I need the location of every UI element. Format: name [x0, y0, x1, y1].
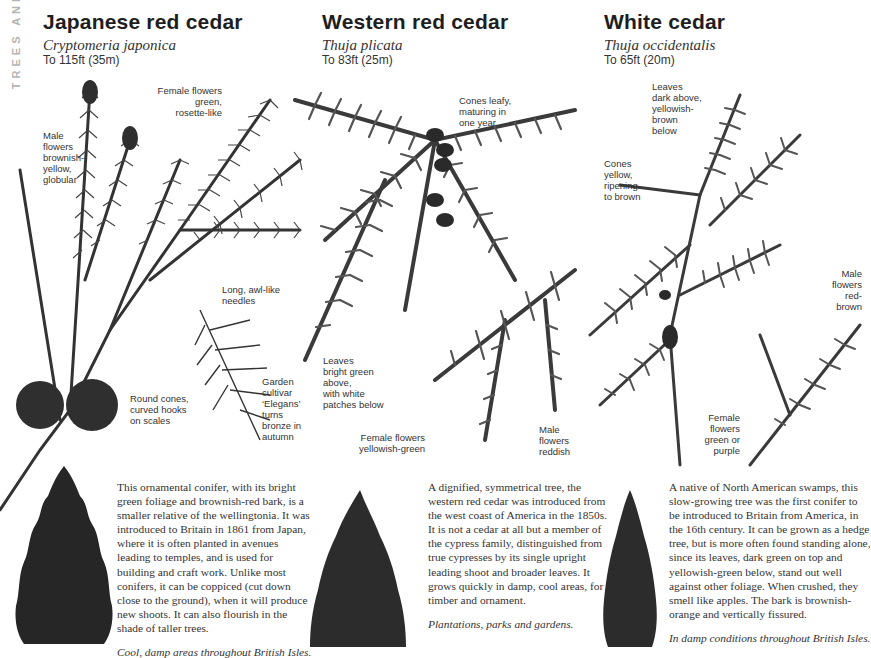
label-white-female-flowers: Female flowers green or purple [690, 412, 740, 456]
species-2-max-height: To 83ft (25m) [322, 53, 393, 67]
species-3-description: A native of North American swamps, this … [669, 480, 871, 621]
species-3-habitat: In damp conditions throughout British Is… [669, 632, 871, 644]
japanese-cedar-tree-silhouette [14, 466, 114, 646]
label-japanese-male-flowers: Male flowers brownish- yellow, globular [43, 130, 84, 185]
label-white-male-flowers: Male flowers red- brown [820, 268, 862, 312]
species-1-max-height: To 115ft (35m) [43, 53, 119, 67]
species-1-latin-name: Cryptomeria japonica [43, 37, 176, 54]
label-japanese-female-flowers: Female flowers green, rosette-like [150, 85, 222, 118]
species-2-habitat: Plantations, parks and gardens. [428, 618, 608, 630]
label-white-leaves: Leaves dark above, yellowish- brown belo… [652, 81, 702, 136]
label-western-leaves: Leaves bright green above, with white pa… [323, 355, 384, 410]
species-2-common-name: Western red cedar [322, 10, 508, 34]
label-western-male-flowers: Male flowers reddish [539, 424, 570, 457]
label-white-cones: Cones yellow, ripening to brown [604, 158, 640, 202]
label-western-cones: Cones leafy, maturing in one year [459, 95, 511, 128]
species-3-max-height: To 65ft (20m) [604, 53, 675, 67]
species-1-habitat: Cool, damp areas throughout British Isle… [117, 646, 313, 658]
species-1-description: This ornamental conifer, with its bright… [117, 480, 313, 635]
label-japanese-needles: Long, awl-like needles [222, 284, 280, 306]
species-1-text-block: This ornamental conifer, with its bright… [117, 480, 313, 658]
white-cedar-tree-silhouette [600, 490, 660, 647]
species-3-latin-name: Thuja occidentalis [604, 37, 715, 54]
species-2-description: A dignified, symmetrical tree, the weste… [428, 480, 608, 607]
species-2-text-block: A dignified, symmetrical tree, the weste… [428, 480, 608, 630]
label-western-female-flowers: Female flowers yellowish-green [340, 432, 425, 454]
species-2-latin-name: Thuja plicata [322, 37, 402, 54]
species-3-text-block: A native of North American swamps, this … [669, 480, 871, 644]
species-3-common-name: White cedar [604, 10, 725, 34]
western-cedar-tree-silhouette [308, 490, 408, 647]
species-1-common-name: Japanese red cedar [43, 10, 243, 34]
label-japanese-cones: Round cones, curved hooks on scales [130, 393, 189, 426]
